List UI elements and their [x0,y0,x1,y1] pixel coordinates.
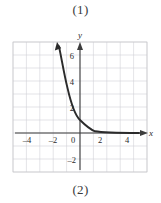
x-tick-label--4: –4 [22,135,32,145]
y-axis-label: y [77,30,82,40]
graph-figure: x y –4 –2 0 2 4 6 4 2 –2 [0,0,161,203]
y-tick-label-6: 6 [70,51,74,61]
exponential-decay-curve [55,42,139,133]
figure-caption-bottom: (2) [0,182,161,198]
x-tick-label-4: 4 [125,135,130,145]
x-tick-label--2: –2 [48,135,58,145]
x-axis-label: x [148,128,153,138]
x-tick-label-0: 0 [71,135,75,145]
x-tick-label-2: 2 [98,135,102,145]
y-tick-label--2: –2 [67,155,77,165]
y-tick-label-4: 4 [70,77,75,87]
y-axis [77,42,83,170]
